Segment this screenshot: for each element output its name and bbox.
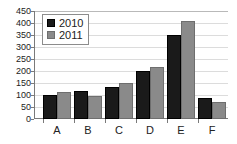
legend-item-2011[interactable]: 2011	[47, 29, 83, 41]
bar-2010-c[interactable]	[105, 87, 119, 119]
x-tick-label-f: F	[198, 124, 226, 137]
bar-group-d	[136, 11, 164, 119]
x-tick-mark-0	[43, 119, 44, 123]
x-axis: A B C D E F	[34, 124, 228, 142]
legend-label-2010: 2010	[59, 17, 83, 29]
y-tick-label-400: 400	[16, 19, 31, 28]
bar-group-f	[198, 11, 226, 119]
x-tick-label-a: A	[43, 124, 71, 137]
bar-chart: 450 400 350 300 250 200 150 100 50 0	[0, 0, 237, 144]
bar-2010-d[interactable]	[136, 71, 150, 119]
bar-group-c	[105, 11, 133, 119]
x-tick-mark-5	[198, 119, 199, 123]
x-tick-mark-4	[167, 119, 168, 123]
bar-2011-c[interactable]	[119, 83, 133, 119]
x-tick-mark-1	[74, 119, 75, 123]
x-tick-label-d: D	[136, 124, 164, 137]
bar-2011-f[interactable]	[212, 102, 226, 119]
y-tick-label-300: 300	[16, 43, 31, 52]
bar-group-e	[167, 11, 195, 119]
y-tick-label-100: 100	[16, 91, 31, 100]
y-tick-label-350: 350	[16, 31, 31, 40]
bar-2011-e[interactable]	[181, 21, 195, 119]
x-tick-mark-2	[105, 119, 106, 123]
bar-2011-b[interactable]	[88, 96, 102, 119]
y-tick-label-50: 50	[21, 103, 31, 112]
y-axis: 450 400 350 300 250 200 150 100 50 0	[0, 0, 31, 144]
y-tick-label-250: 250	[16, 55, 31, 64]
legend-item-2010[interactable]: 2010	[47, 17, 83, 29]
legend: 2010 2011	[42, 14, 89, 45]
bar-2010-a[interactable]	[43, 95, 57, 119]
bar-2010-b[interactable]	[74, 91, 88, 119]
x-tick-label-c: C	[105, 124, 133, 137]
legend-swatch-icon-2011	[47, 31, 55, 39]
y-tick-label-150: 150	[16, 79, 31, 88]
y-tick-label-200: 200	[16, 67, 31, 76]
x-tick-label-e: E	[167, 124, 195, 137]
bar-2010-f[interactable]	[198, 98, 212, 119]
y-tick-mark-0	[31, 119, 34, 120]
x-tick-mark-3	[136, 119, 137, 123]
bar-2011-d[interactable]	[150, 67, 164, 119]
y-tick-label-450: 450	[16, 7, 31, 16]
legend-swatch-icon-2010	[47, 19, 55, 27]
x-tick-label-b: B	[74, 124, 102, 137]
bar-2011-a[interactable]	[57, 92, 71, 119]
legend-label-2011: 2011	[59, 29, 83, 41]
bar-2010-e[interactable]	[167, 35, 181, 119]
